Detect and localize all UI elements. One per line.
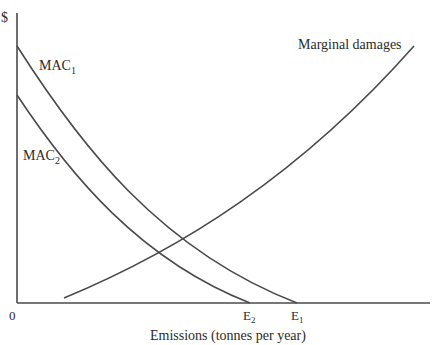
origin-label: 0 <box>9 308 16 323</box>
chart: $ 0 MAC1 MAC2 Marginal damages E2 E1 Emi… <box>0 0 444 345</box>
e1-tick-label: E1 <box>291 308 303 325</box>
mac2-label: MAC2 <box>23 148 60 166</box>
e2-tick-label: E2 <box>243 308 255 325</box>
marginal-damages-label: Marginal damages <box>298 37 402 52</box>
chart-svg: $ 0 MAC1 MAC2 Marginal damages E2 E1 Emi… <box>0 0 444 345</box>
mac1-label: MAC1 <box>39 58 76 76</box>
mac1-curve <box>17 46 297 303</box>
y-axis-label: $ <box>1 10 8 25</box>
marginal-damages-curve <box>64 46 414 298</box>
x-axis-title: Emissions (tonnes per year) <box>150 328 306 344</box>
mac2-curve <box>17 95 250 303</box>
